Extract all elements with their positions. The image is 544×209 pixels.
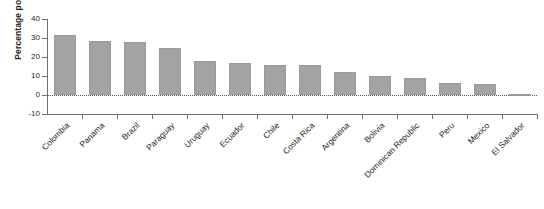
y-tick-label: 20 <box>0 53 40 61</box>
bar-chart: Percentage points 403020100-10 ColombiaP… <box>0 0 544 209</box>
bar <box>404 78 426 95</box>
y-tick-mark <box>42 19 47 20</box>
x-tick-mark <box>397 114 398 119</box>
x-tick-mark <box>432 114 433 119</box>
x-tick-mark <box>537 114 538 119</box>
bar <box>194 61 216 95</box>
x-tick-mark <box>222 114 223 119</box>
y-tick-mark <box>42 38 47 39</box>
bar <box>509 94 531 96</box>
bar <box>439 83 461 95</box>
bar <box>369 76 391 95</box>
y-tick-label: 40 <box>0 15 40 23</box>
x-tick-mark <box>187 114 188 119</box>
x-tick-mark <box>502 114 503 119</box>
x-tick-mark <box>362 114 363 119</box>
x-tick-mark <box>152 114 153 119</box>
bar <box>334 72 356 95</box>
y-tick-mark <box>42 57 47 58</box>
x-tick-mark <box>292 114 293 119</box>
y-tick-mark <box>42 114 47 115</box>
y-axis-line <box>47 19 48 115</box>
bar <box>264 65 286 95</box>
bar <box>474 84 496 95</box>
bar <box>299 65 321 95</box>
x-tick-mark <box>327 114 328 119</box>
y-tick-label: 10 <box>0 72 40 80</box>
bar <box>229 63 251 95</box>
y-tick-label-text: 20 <box>4 53 40 61</box>
y-tick-label: 30 <box>0 34 40 42</box>
y-tick-label-text: 0 <box>4 91 40 99</box>
bar <box>159 48 181 96</box>
y-tick-label-text: 30 <box>4 34 40 42</box>
y-tick-label-text: 10 <box>4 72 40 80</box>
bar <box>54 35 76 95</box>
zero-baseline <box>47 95 537 96</box>
y-tick-mark <box>42 76 47 77</box>
bar <box>89 41 111 95</box>
y-tick-label-text: 40 <box>4 15 40 23</box>
x-tick-mark <box>82 114 83 119</box>
y-tick-label: 0 <box>0 91 40 99</box>
x-tick-mark <box>257 114 258 119</box>
y-tick-label: -10 <box>0 110 40 118</box>
y-tick-label-text: -10 <box>4 110 40 118</box>
x-tick-mark <box>117 114 118 119</box>
x-tick-mark <box>467 114 468 119</box>
bar <box>124 42 146 95</box>
